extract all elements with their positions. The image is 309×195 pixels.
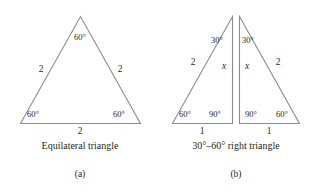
triangle-b-left-apex-angle-label: 30° xyxy=(211,36,223,45)
panel-label-a: (a) xyxy=(75,170,86,180)
triangle-a-apex-angle-label: 60° xyxy=(74,33,86,42)
triangle-a-base-side-label: 2 xyxy=(78,127,83,137)
triangle-a-caption: Equilateral triangle xyxy=(42,141,119,151)
triangle-a-left-angle-label: 60° xyxy=(27,110,39,119)
triangle-b-right-base-right-angle-label: 60° xyxy=(276,110,288,119)
triangle-b-right-base-left-angle-label: 90° xyxy=(245,110,257,119)
triangle-a-right-side-label: 2 xyxy=(118,65,123,75)
triangle-b-right-vertical-side-label: x xyxy=(245,62,249,72)
triangle-b-left-vertical-side-label: x xyxy=(222,62,226,72)
triangle-b-right-hypotenuse-label: 2 xyxy=(276,58,281,68)
triangle-b-right-base-side-label: 1 xyxy=(267,127,272,137)
triangle-b-left-hypotenuse-label: 2 xyxy=(191,58,196,68)
triangle-b-caption: 30°–60° right triangle xyxy=(192,141,279,151)
triangle-b-left-base-right-angle-label: 90° xyxy=(209,110,221,119)
triangle-a-right-angle-label: 60° xyxy=(113,110,125,119)
figure-line-art xyxy=(0,0,309,195)
geometry-figure: 60° 60° 60° 2 2 2 Equilateral triangle (… xyxy=(0,0,309,195)
triangle-b-left-base-left-angle-label: 60° xyxy=(179,110,191,119)
triangle-b-right-apex-angle-label: 30° xyxy=(242,36,254,45)
triangle-b-left-base-side-label: 1 xyxy=(200,127,205,137)
panel-label-b: (b) xyxy=(230,170,241,180)
triangle-a-left-side-label: 2 xyxy=(39,65,44,75)
